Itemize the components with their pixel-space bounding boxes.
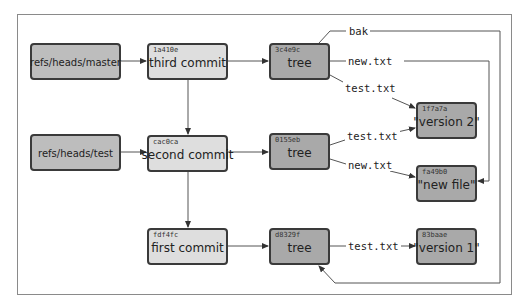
edge-label-test-txt: test.txt (345, 130, 400, 142)
edge-label-new-txt: new.txt (346, 55, 394, 67)
tree-hash: 3c4e9c (275, 46, 300, 54)
ref-label: refs/heads/test (38, 148, 113, 159)
blob-label: "version 2" (413, 115, 479, 129)
tree-node-0155eb: 0155eb tree (269, 133, 330, 170)
edge-label-test-txt: test.txt (343, 82, 398, 94)
blob-hash: 1f7a7a (422, 105, 447, 113)
tree-hash: d8329f (275, 231, 300, 239)
commit-label: first commit (151, 241, 224, 255)
blob-label: "new file" (418, 178, 476, 192)
tree-hash: 0155eb (275, 136, 300, 144)
blob-node-83baae: 83baae "version 1" (416, 228, 477, 265)
ref-master: refs/heads/master (30, 43, 121, 80)
blob-hash: fa49b0 (422, 168, 447, 176)
ref-test: refs/heads/test (30, 134, 121, 171)
tree-node-d8329f: d8329f tree (269, 228, 330, 265)
blob-node-1f7a7a: 1f7a7a "version 2" (416, 102, 477, 139)
ref-label: refs/heads/master (30, 57, 121, 68)
blob-node-fa49b0: fa49b0 "new file" (416, 165, 477, 202)
edge-label-new-txt: new.txt (346, 159, 394, 171)
commit-label: third commit (149, 56, 226, 70)
tree-label: tree (287, 56, 311, 70)
commit-label: second commit (142, 148, 234, 162)
tree-label: tree (287, 241, 311, 255)
blob-label: "version 1" (413, 241, 479, 255)
commit-hash: 1a410e (153, 46, 178, 54)
edge-label-test-txt: test.txt (346, 240, 401, 252)
commit-node-first: fdf4fc first commit (147, 228, 228, 265)
commit-node-second: cac0ca second commit (147, 135, 228, 172)
tree-node-3c4e9c: 3c4e9c tree (269, 43, 330, 80)
commit-node-third: 1a410e third commit (147, 43, 228, 80)
edge-label-bak: bak (347, 25, 370, 37)
blob-hash: 83baae (422, 231, 447, 239)
tree-label: tree (287, 146, 311, 160)
commit-hash: cac0ca (153, 138, 178, 146)
commit-hash: fdf4fc (153, 231, 178, 239)
